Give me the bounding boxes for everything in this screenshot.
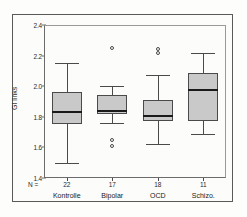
whisker-cap-upper [191,53,215,54]
boxplot-figure: 1.41.61.82.02.22.4 GI links 22Kontrolle1… [0,0,247,217]
median-line [188,89,218,91]
box-iqr [188,73,218,121]
whisker-cap-lower [191,134,215,135]
box-plot-group [0,0,247,217]
